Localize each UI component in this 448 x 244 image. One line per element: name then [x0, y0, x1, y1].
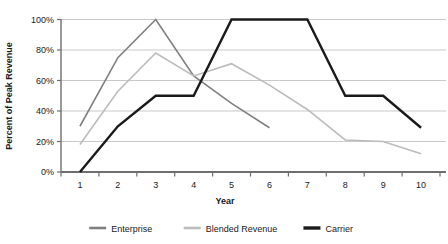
x-tick-label: 9 [381, 180, 386, 190]
legend-label: Carrier [325, 224, 353, 234]
x-tick-label: 5 [229, 180, 234, 190]
x-tick-label: 4 [191, 180, 196, 190]
y-tick-label: 80% [36, 45, 54, 55]
legend-label: Enterprise [111, 224, 152, 234]
chart-container: 0%20%40%60%80%100% 12345678910 Year Perc… [0, 0, 448, 244]
y-axis-title: Percent of Peak Revenue [4, 42, 14, 150]
x-tick-label: 6 [267, 180, 272, 190]
legend-label: Blended Revenue [206, 224, 278, 234]
x-tick-label: 2 [115, 180, 120, 190]
y-tick-label: 60% [36, 76, 54, 86]
y-tick-label: 20% [36, 137, 54, 147]
y-tick-label: 100% [31, 15, 54, 25]
x-tick-label: 10 [416, 180, 426, 190]
x-tick-label: 1 [77, 180, 82, 190]
x-axis-title: Year [215, 196, 235, 206]
x-tick-label: 7 [305, 180, 310, 190]
y-tick-label: 0% [41, 167, 54, 177]
y-tick-label: 40% [36, 106, 54, 116]
revenue-line-chart: 0%20%40%60%80%100% 12345678910 Year Perc… [0, 0, 448, 244]
x-tick-label: 8 [343, 180, 348, 190]
x-tick-label: 3 [153, 180, 158, 190]
